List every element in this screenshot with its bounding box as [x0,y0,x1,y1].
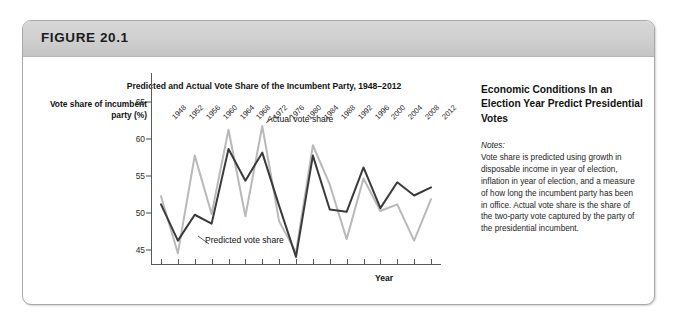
notes-panel: Economic Conditions In an Election Year … [471,57,649,305]
figure-card: FIGURE 20.1 Predicted and Actual Vote Sh… [22,20,655,305]
x-axis-title: Year [375,273,393,283]
x-tick-label: 2012 [440,103,458,121]
notes-label: Notes: [481,141,505,150]
figure-label: FIGURE 20.1 [41,30,129,45]
notes-body: Vote share is predicted using growth in … [481,152,641,235]
y-tick-label: 55 [136,171,145,181]
y-axis-title: Vote share of incumbent party (%) [31,99,147,122]
y-tick-label: 50 [136,208,145,218]
y-tick-label: 45 [136,245,145,255]
chart-title: Predicted and Actual Vote Share of the I… [69,81,459,91]
chart-panel: Predicted and Actual Vote Share of the I… [23,57,463,305]
annotation-actual-vote-share: Actual vote share [267,114,333,124]
notes-heading: Economic Conditions In an Election Year … [481,83,643,126]
annotation-predicted-vote-share: Predicted vote share [205,235,284,245]
y-tick-label: 60 [136,134,145,144]
y-tick-label: 65 [136,97,145,107]
figure-banner: FIGURE 20.1 [23,21,654,57]
